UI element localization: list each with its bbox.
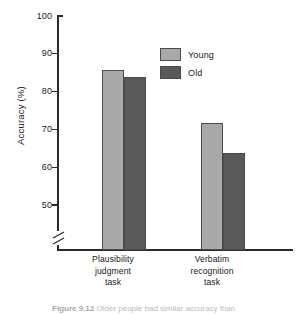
figure-caption: Figure 9.12 Older people had similar acc… — [52, 304, 296, 314]
y-tick-label-100: 100 — [12, 12, 52, 21]
bar-young-group2 — [201, 123, 223, 250]
bar-old-group2 — [223, 153, 245, 250]
x-category-label-1: Plausibilityjudgmenttask — [58, 254, 168, 289]
y-tick-label-50: 50 — [12, 201, 52, 210]
legend-label-young: Young — [188, 50, 214, 60]
legend-item-old: Old — [160, 66, 214, 79]
y-axis-title: Accuracy (%) — [15, 56, 26, 176]
legend-label-old: Old — [188, 68, 202, 78]
figure-container: 1009080706050 Accuracy (%) Plausibilityj… — [0, 0, 300, 314]
chart-plot-area: 1009080706050 Accuracy (%) Plausibilityj… — [0, 0, 300, 300]
figure-caption-text: Older people had similar accuracy than — [96, 304, 235, 313]
bar-old-group1 — [124, 77, 146, 250]
figure-caption-label: Figure 9.12 — [52, 304, 94, 313]
x-category-label-2: Verbatimrecognitiontask — [157, 254, 267, 289]
legend-item-young: Young — [160, 48, 214, 61]
legend-swatch-young — [160, 48, 181, 61]
legend-swatch-old — [160, 66, 181, 79]
bar-young-group1 — [102, 70, 124, 250]
chart-legend: Young Old — [160, 48, 214, 84]
